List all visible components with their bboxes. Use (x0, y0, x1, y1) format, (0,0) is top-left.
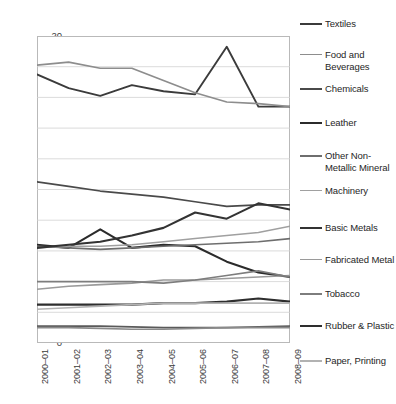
legend-item[interactable]: Paper, Printing (300, 355, 386, 367)
legend-item[interactable]: Textiles (300, 18, 356, 30)
legend-item[interactable]: Other Non-Metallic Mineral (300, 150, 396, 173)
x-axis-tick-label: 2002–03 (104, 349, 113, 384)
x-axis-tick-label: 2003–04 (136, 349, 145, 384)
legend-color-swatch (300, 122, 322, 124)
legend-color-swatch (300, 259, 322, 260)
x-axis-tick-label: 2004–05 (168, 349, 177, 384)
legend-item-label: Leather (325, 117, 357, 129)
legend-color-swatch (300, 54, 322, 55)
legend-item-label: Food and Beverages (325, 49, 396, 72)
x-axis-tick-label: 2001–02 (73, 349, 82, 384)
series-line (37, 229, 290, 277)
legend-item-label: Chemicals (325, 83, 368, 95)
legend-item-label: Textiles (325, 18, 356, 30)
legend-color-swatch (300, 360, 322, 362)
legend-color-swatch (300, 293, 322, 295)
legend-item[interactable]: Basic Metals (300, 222, 378, 234)
chart-legend: TextilesFood and BeveragesChemicalsLeath… (300, 0, 396, 404)
plot-lines (37, 36, 290, 343)
x-axis-tick-label: 2000–01 (41, 349, 50, 384)
x-axis-tick-label: 2007–08 (262, 349, 271, 384)
legend-item[interactable]: Food and Beverages (300, 49, 396, 72)
x-axis-tick-label: 2006–07 (231, 349, 240, 384)
legend-item-label: Other Non-Metallic Mineral (325, 150, 396, 173)
legend-item-label: Machinery (325, 185, 368, 197)
legend-color-swatch (300, 23, 322, 25)
legend-item-label: Paper, Printing (325, 355, 386, 367)
legend-item-label: Fabricated Metal (325, 254, 394, 266)
legend-item-label: Basic Metals (325, 222, 378, 234)
x-axis-tick-label: 2005–06 (199, 349, 208, 384)
legend-color-swatch (300, 155, 322, 157)
legend-color-swatch (300, 227, 322, 229)
legend-item-label: Tobacco (325, 288, 360, 300)
legend-color-swatch (300, 88, 322, 90)
legend-item[interactable]: Rubber & Plastic (300, 320, 394, 332)
legend-item-label: Rubber & Plastic (325, 320, 394, 332)
legend-item[interactable]: Leather (300, 117, 357, 129)
series-line (37, 62, 290, 107)
series-line (37, 182, 290, 207)
legend-color-swatch (300, 190, 322, 191)
legend-item[interactable]: Fabricated Metal (300, 254, 394, 266)
legend-item[interactable]: Machinery (300, 185, 368, 197)
legend-item[interactable]: Tobacco (300, 288, 360, 300)
legend-item[interactable]: Chemicals (300, 83, 368, 95)
line-chart: 02468101214161820 2000–012001–022002–032… (0, 0, 396, 404)
legend-color-swatch (300, 325, 322, 327)
